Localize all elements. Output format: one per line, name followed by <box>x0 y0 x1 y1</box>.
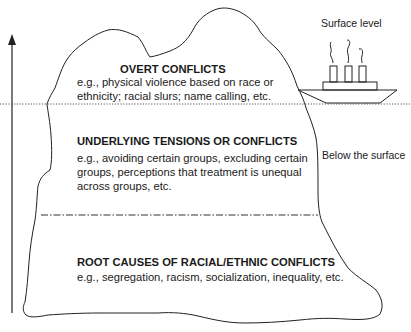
vertical-arrow-icon <box>8 34 16 313</box>
section-line: across groups, etc. <box>77 179 172 193</box>
section-line: e.g., segregation, racism, socialization… <box>77 270 344 284</box>
section-line: e.g., physical violence based on race or <box>77 75 274 89</box>
section-title-root: ROOT CAUSES OF RACIAL/ETHNIC CONFLICTS <box>77 256 335 268</box>
section-title-underlying: UNDERLYING TENSIONS OR CONFLICTS <box>77 135 297 147</box>
section-line: ethnicity; racial slurs; name calling, e… <box>77 89 271 103</box>
below-surface-label: Below the surface <box>322 149 405 161</box>
ship-icon <box>298 40 397 103</box>
surface-level-label: Surface level <box>321 17 382 29</box>
section-line: e.g., avoiding certain groups, excluding… <box>77 151 308 165</box>
section-line: groups, perceptions that treatment is un… <box>77 165 302 179</box>
section-title-overt: OVERT CONFLICTS <box>120 63 226 75</box>
